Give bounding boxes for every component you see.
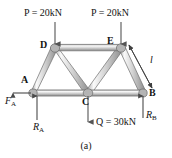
reaction-ra-label: RA (33, 122, 44, 132)
member-diagonal-dc (52, 47, 91, 94)
node-label-e: E (107, 36, 114, 46)
joint-b (139, 89, 147, 97)
load-p-right-label: P = 20kN (91, 8, 129, 18)
node-label-d: D (40, 40, 47, 50)
member-bottom-chord-cb (87, 90, 144, 96)
reaction-rb-subscript: B (152, 114, 157, 122)
load-p-left-label: P = 20kN (24, 8, 62, 18)
load-q-label: Q = 30kN (96, 117, 136, 127)
joint-e (116, 44, 125, 52)
figure-caption: (a) (0, 140, 172, 151)
node-label-c: C (82, 97, 89, 107)
reaction-fa-subscript: A (11, 100, 16, 108)
member-bottom-chord-ac (32, 90, 89, 96)
node-label-b: B (149, 88, 156, 98)
node-label-a: A (21, 75, 28, 85)
reaction-ra-subscript: A (39, 126, 44, 134)
member-diagonal-ad (30, 45, 58, 94)
reaction-rb-label: RB (146, 110, 157, 120)
member-diagonal-ce (85, 47, 124, 94)
reaction-fa-label: FA (5, 96, 16, 106)
truss-members (29, 44, 147, 97)
joint-d (50, 44, 59, 52)
truss-figure: P = 20kN P = 20kN Q = 30kN FA RA RB A B … (0, 0, 172, 158)
dimension-l-label: l (150, 55, 153, 65)
